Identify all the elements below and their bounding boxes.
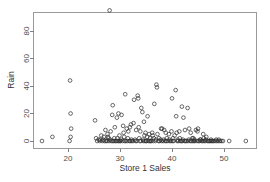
x-tick-label: 30 [116,154,125,163]
scatter-plot-figure: 20304050 020406080 Store 1 Sales Rain [0,0,270,182]
y-tick-label: 20 [22,109,31,118]
figure-background [0,0,270,182]
x-tick-label: 40 [168,154,177,163]
y-tick-label: 40 [22,81,31,90]
y-axis-title: Rain [6,71,16,89]
y-tick-label: 80 [22,26,31,35]
x-axis-title: Store 1 Sales [119,163,170,173]
y-tick-label: 60 [22,54,31,63]
y-tick-label: 0 [22,138,31,143]
x-tick-label: 20 [64,154,73,163]
x-tick-label: 50 [220,154,229,163]
plot-canvas: 20304050 020406080 Store 1 Sales Rain [0,0,270,182]
